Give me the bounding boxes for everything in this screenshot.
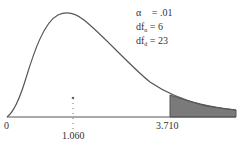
density-curve xyxy=(7,13,236,117)
alpha-annotation: α = .01 xyxy=(136,7,172,18)
dfd-value: = 23 xyxy=(150,35,168,46)
alpha-value: = .01 xyxy=(152,7,173,18)
f-distribution-chart xyxy=(0,0,240,145)
dfd-subscript: d xyxy=(144,41,147,47)
observed-marker xyxy=(72,97,75,100)
tick-label-critical: 3.710 xyxy=(156,120,179,131)
dfn-annotation: dfn = 6 xyxy=(136,21,163,33)
dfd-annotation: dfd = 23 xyxy=(136,35,168,47)
dfn-value: = 6 xyxy=(150,21,163,32)
tick-label-observed: 1.060 xyxy=(62,130,85,141)
dfn-subscript: n xyxy=(144,27,147,33)
tick-label-0: 0 xyxy=(4,120,9,131)
alpha-symbol: α xyxy=(136,7,141,18)
